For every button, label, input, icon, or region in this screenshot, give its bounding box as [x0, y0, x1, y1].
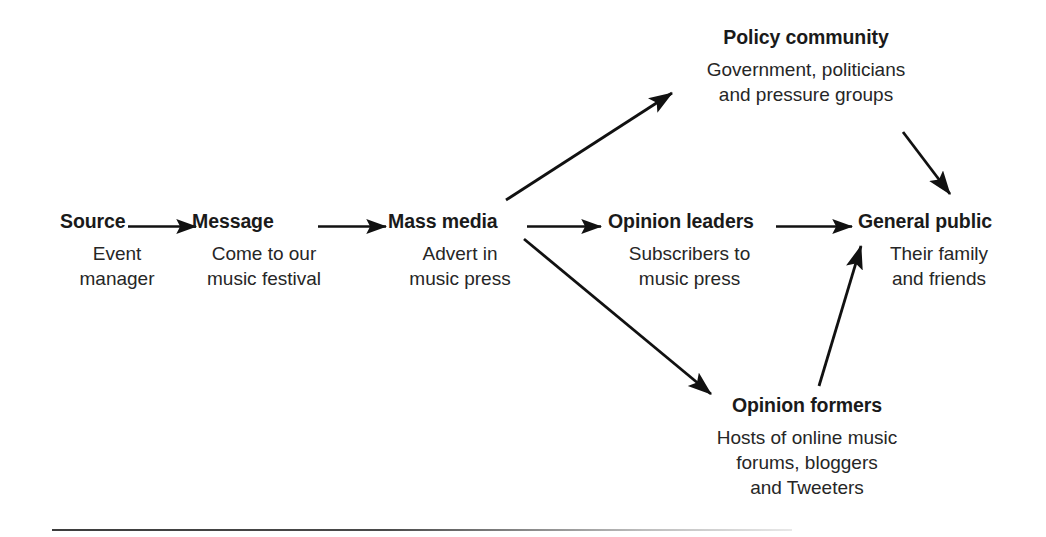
node-source: Source Event manager: [60, 212, 180, 291]
node-message-description: Come to our music festival: [192, 241, 336, 292]
node-opinion-formers-description: Hosts of online music forums, bloggers a…: [692, 425, 922, 501]
node-source-title: Source: [60, 212, 180, 232]
node-opinion-leaders-title: Opinion leaders: [608, 212, 773, 232]
node-opinion-leaders: Opinion leaders Subscribers to music pre…: [608, 212, 773, 291]
node-policy-community-title: Policy community: [686, 28, 926, 48]
node-general-public-title: General public: [858, 212, 1014, 232]
node-opinion-leaders-description: Subscribers to music press: [606, 241, 773, 292]
node-opinion-formers-title: Opinion formers: [692, 396, 922, 416]
page-divider-rule: [52, 529, 792, 531]
node-mass-media-description: Advert in music press: [390, 241, 530, 292]
edge-mass-media-to-policy-community: [506, 93, 672, 200]
node-general-public: General public Their family and friends: [858, 212, 1014, 291]
edge-policy-community-to-general-public: [903, 132, 950, 194]
node-policy-community-description: Government, politicians and pressure gro…: [686, 57, 926, 108]
node-mass-media: Mass media Advert in music press: [388, 212, 530, 291]
node-policy-community: Policy community Government, politicians…: [686, 28, 926, 107]
node-source-description: Event manager: [54, 241, 180, 292]
node-opinion-formers: Opinion formers Hosts of online music fo…: [692, 396, 922, 500]
diagram-canvas: Source Event manager Message Come to our…: [0, 0, 1046, 537]
node-message-title: Message: [192, 212, 336, 232]
node-general-public-description: Their family and friends: [864, 241, 1014, 292]
node-message: Message Come to our music festival: [192, 212, 336, 291]
node-mass-media-title: Mass media: [388, 212, 530, 232]
edge-opinion-formers-to-general-public: [819, 246, 861, 386]
